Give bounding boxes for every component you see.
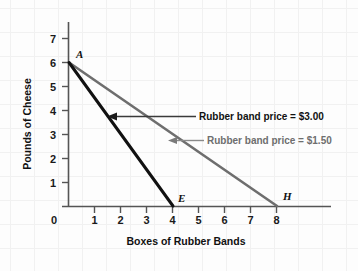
annotation-black-label: Rubber band price = $3.00 — [199, 111, 324, 122]
black-budget-line — [69, 63, 173, 207]
x-tick-label-4: 4 — [169, 214, 176, 226]
x-tick-label-7: 7 — [247, 214, 253, 226]
x-tick-label-2: 2 — [117, 214, 123, 226]
y-tick-label-4: 4 — [50, 105, 57, 117]
annotation-gray-label: Rubber band price = $1.50 — [207, 135, 332, 146]
gray-leader-arrowhead — [168, 137, 177, 144]
point-label-a: A — [75, 48, 83, 60]
x-tick-label-3: 3 — [143, 214, 149, 226]
y-tick-label-3: 3 — [50, 129, 56, 141]
x-tick-label-6: 6 — [221, 214, 227, 226]
budget-constraint-chart: 1 2 3 4 5 6 7 0 1 2 3 4 5 6 7 8 — [0, 0, 358, 271]
y-tick-label-6: 6 — [50, 57, 56, 69]
chart-figure: 1 2 3 4 5 6 7 0 1 2 3 4 5 6 7 8 — [0, 0, 358, 271]
x-tick-label-8: 8 — [273, 214, 279, 226]
y-axis-title: Pounds of Cheese — [21, 78, 33, 170]
y-axis-ticks — [62, 39, 69, 183]
x-axis-ticks — [95, 207, 277, 214]
origin-label: 0 — [51, 214, 57, 226]
y-tick-label-2: 2 — [50, 153, 56, 165]
x-tick-label-5: 5 — [195, 214, 201, 226]
point-label-e: E — [177, 192, 185, 204]
y-tick-label-1: 1 — [50, 177, 56, 189]
point-label-h: H — [282, 190, 292, 202]
x-axis-title: Boxes of Rubber Bands — [126, 235, 245, 247]
y-tick-label-7: 7 — [50, 33, 56, 45]
x-tick-label-1: 1 — [91, 214, 97, 226]
y-tick-label-5: 5 — [50, 81, 56, 93]
